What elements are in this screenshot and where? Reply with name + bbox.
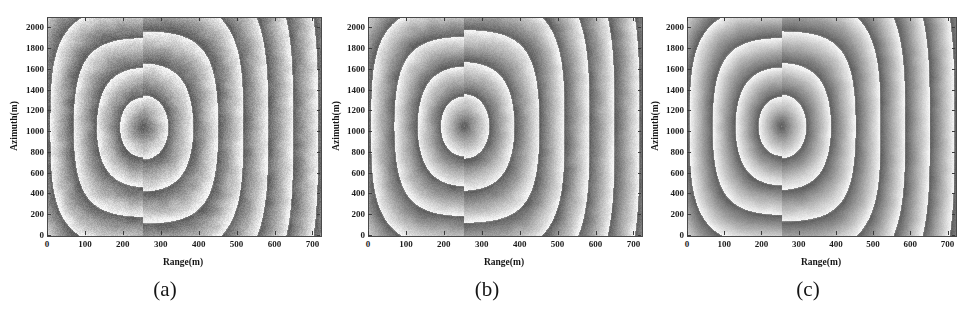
y-tick-label: 1400 bbox=[26, 85, 44, 94]
x-tick-top bbox=[275, 18, 276, 21]
panel-caption-b: (b) bbox=[475, 277, 500, 302]
x-tick-bottom bbox=[161, 231, 162, 235]
y-tick-label: 1600 bbox=[666, 64, 684, 73]
y-tick-label: 200 bbox=[31, 210, 45, 219]
y-tick-label: 1200 bbox=[347, 106, 365, 115]
y-tick-right bbox=[952, 69, 955, 70]
x-tick-top bbox=[596, 18, 597, 21]
y-tick-left bbox=[47, 235, 51, 236]
x-tick-bottom bbox=[275, 231, 276, 235]
x-tick-top bbox=[948, 18, 949, 21]
x-tick-bottom bbox=[836, 231, 837, 235]
x-tick-top bbox=[161, 18, 162, 21]
figure-container: 0100200300400500600700020040060080010001… bbox=[0, 0, 975, 312]
x-tick-top bbox=[85, 18, 86, 21]
y-tick-label: 600 bbox=[671, 168, 685, 177]
y-tick-label: 800 bbox=[352, 147, 366, 156]
x-tick-bottom bbox=[633, 231, 634, 235]
y-tick-label: 2000 bbox=[26, 23, 44, 32]
y-tick-label: 1800 bbox=[347, 44, 365, 53]
y-tick-right bbox=[638, 152, 641, 153]
y-tick-right bbox=[317, 131, 320, 132]
x-tick-bottom bbox=[558, 231, 559, 235]
y-tick-right bbox=[952, 214, 955, 215]
y-tick-right bbox=[952, 27, 955, 28]
y-tick-right bbox=[317, 69, 320, 70]
y-tick-label: 200 bbox=[352, 210, 366, 219]
x-tick-label: 200 bbox=[437, 240, 451, 249]
y-tick-label: 400 bbox=[352, 189, 366, 198]
x-tick-label: 0 bbox=[685, 240, 690, 249]
y-tick-label: 1200 bbox=[666, 106, 684, 115]
y-tick-label: 200 bbox=[671, 210, 685, 219]
y-tick-left bbox=[47, 90, 51, 91]
y-tick-right bbox=[317, 173, 320, 174]
y-tick-label: 800 bbox=[671, 147, 685, 156]
y-tick-label: 0 bbox=[680, 231, 685, 240]
y-tick-right bbox=[638, 131, 641, 132]
y-tick-label: 600 bbox=[352, 168, 366, 177]
y-tick-left bbox=[368, 69, 372, 70]
x-axis-title-c: Range(m) bbox=[801, 257, 841, 267]
plot-area-a[interactable] bbox=[47, 17, 322, 237]
y-tick-label: 400 bbox=[671, 189, 685, 198]
x-tick-label: 600 bbox=[904, 240, 918, 249]
y-tick-label: 1800 bbox=[26, 44, 44, 53]
x-tick-top bbox=[799, 18, 800, 21]
y-axis-title-b: Azimuth(m) bbox=[331, 101, 341, 151]
y-tick-right bbox=[952, 90, 955, 91]
x-tick-label: 600 bbox=[268, 240, 282, 249]
x-tick-top bbox=[520, 18, 521, 21]
y-tick-right bbox=[317, 193, 320, 194]
y-axis-title-c: Azimuth(m) bbox=[650, 101, 660, 151]
x-tick-label: 100 bbox=[78, 240, 92, 249]
y-tick-right bbox=[952, 131, 955, 132]
y-tick-left bbox=[368, 90, 372, 91]
x-axis-title-a: Range(m) bbox=[163, 257, 203, 267]
x-tick-top bbox=[633, 18, 634, 21]
x-tick-top bbox=[724, 18, 725, 21]
x-tick-bottom bbox=[948, 231, 949, 235]
x-tick-label: 400 bbox=[513, 240, 527, 249]
x-tick-label: 600 bbox=[589, 240, 603, 249]
x-tick-bottom bbox=[237, 231, 238, 235]
x-tick-top bbox=[406, 18, 407, 21]
x-tick-bottom bbox=[910, 231, 911, 235]
y-tick-left bbox=[368, 152, 372, 153]
x-tick-label: 300 bbox=[154, 240, 168, 249]
x-tick-top bbox=[836, 18, 837, 21]
y-tick-right bbox=[952, 173, 955, 174]
y-tick-left bbox=[368, 214, 372, 215]
plot-area-b[interactable] bbox=[368, 17, 643, 237]
x-tick-top bbox=[482, 18, 483, 21]
x-tick-top bbox=[910, 18, 911, 21]
x-tick-label: 400 bbox=[829, 240, 843, 249]
x-tick-bottom bbox=[312, 231, 313, 235]
y-tick-label: 400 bbox=[31, 189, 45, 198]
y-tick-left bbox=[687, 48, 691, 49]
x-tick-bottom bbox=[406, 231, 407, 235]
x-tick-bottom bbox=[724, 231, 725, 235]
x-tick-bottom bbox=[85, 231, 86, 235]
plot-area-c[interactable] bbox=[687, 17, 957, 237]
x-tick-bottom bbox=[596, 231, 597, 235]
interferogram-canvas-c bbox=[688, 18, 956, 236]
x-tick-top bbox=[558, 18, 559, 21]
y-tick-label: 2000 bbox=[666, 23, 684, 32]
y-tick-label: 1400 bbox=[666, 85, 684, 94]
y-tick-left bbox=[687, 90, 691, 91]
y-tick-left bbox=[687, 235, 691, 236]
y-tick-left bbox=[368, 193, 372, 194]
y-tick-right bbox=[638, 48, 641, 49]
x-tick-bottom bbox=[873, 231, 874, 235]
y-tick-right bbox=[317, 214, 320, 215]
x-tick-top bbox=[761, 18, 762, 21]
x-tick-label: 500 bbox=[551, 240, 565, 249]
x-tick-label: 500 bbox=[230, 240, 244, 249]
y-tick-left bbox=[687, 69, 691, 70]
x-tick-bottom bbox=[761, 231, 762, 235]
x-tick-top bbox=[312, 18, 313, 21]
y-tick-left bbox=[368, 235, 372, 236]
y-tick-left bbox=[687, 152, 691, 153]
x-tick-top bbox=[123, 18, 124, 21]
